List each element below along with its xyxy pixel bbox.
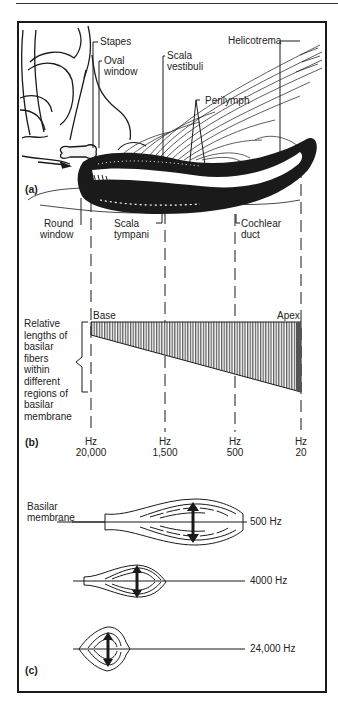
panel-c-tag: (c): [25, 665, 38, 676]
side-label-line: within: [24, 364, 72, 376]
side-label-line: basilar: [24, 399, 72, 411]
tick-value: 20: [281, 447, 321, 458]
label-oval-window-line1: Oval: [104, 55, 137, 66]
side-label-line: regions of: [24, 388, 72, 400]
side-label-line: lengths of: [24, 330, 72, 342]
label-scala-tympani-line2: tympani: [114, 229, 149, 240]
label-stapes: Stapes: [100, 36, 131, 47]
side-label-line: basilar: [24, 341, 72, 353]
label-wave-4000hz: 4000 Hz: [250, 575, 287, 586]
side-label-line: different: [24, 376, 72, 388]
freq-tick-20000: Hz 20,000: [71, 436, 111, 458]
side-label-fiber-lengths: Relative lengths of basilar fibers withi…: [24, 318, 72, 422]
label-wave-500hz: 500 Hz: [250, 516, 282, 527]
side-label-line: Relative: [24, 318, 72, 330]
tick-value: 1,500: [145, 447, 185, 458]
tick-value: 500: [215, 447, 255, 458]
label-round-window-line2: window: [40, 229, 73, 240]
tick-unit: Hz: [71, 436, 111, 447]
side-label-line: membrane: [24, 411, 72, 423]
traveling-waves: [72, 499, 247, 671]
label-scala-tympani: Scala tympani: [114, 218, 149, 240]
label-cochlear-duct: Cochlear duct: [241, 218, 281, 240]
label-base: Base: [93, 310, 116, 321]
label-scala-vestibuli-line1: Scala: [167, 50, 203, 61]
tick-value: 20,000: [71, 447, 111, 458]
side-label-line: fibers: [24, 353, 72, 365]
tick-unit: Hz: [145, 436, 185, 447]
label-helicotrema: Helicotrema: [228, 35, 281, 46]
label-round-window: Round window: [40, 218, 73, 240]
tick-unit: Hz: [281, 436, 321, 447]
freq-tick-20: Hz 20: [281, 436, 321, 458]
label-cochlear-duct-line2: duct: [241, 229, 281, 240]
label-scala-vestibuli-line2: vestibuli: [167, 61, 203, 72]
label-oval-window: Oval window: [104, 55, 137, 77]
label-scala-tympani-line1: Scala: [114, 218, 149, 229]
basilar-fiber-wedge: [91, 322, 301, 392]
label-round-window-line1: Round: [40, 218, 73, 229]
label-basilar-membrane-line2: membrane: [27, 512, 75, 523]
panel-a-tag: (a): [25, 184, 38, 195]
label-oval-window-line2: window: [104, 66, 137, 77]
label-basilar-membrane-line1: Basilar: [27, 501, 75, 512]
label-wave-24000hz: 24,000 Hz: [250, 643, 296, 654]
side-bracket: [76, 322, 88, 392]
label-scala-vestibuli: Scala vestibuli: [167, 50, 203, 72]
panel-b-tag: (b): [25, 437, 38, 448]
freq-tick-1500: Hz 1,500: [145, 436, 185, 458]
label-apex: Apex: [277, 310, 300, 321]
displacement-arrows: [103, 502, 199, 667]
tick-unit: Hz: [215, 436, 255, 447]
label-cochlear-duct-line1: Cochlear: [241, 218, 281, 229]
label-perilymph: Perilymph: [205, 95, 249, 106]
label-basilar-membrane: Basilar membrane: [27, 501, 75, 523]
apex-shade: [296, 322, 301, 392]
freq-tick-500: Hz 500: [215, 436, 255, 458]
